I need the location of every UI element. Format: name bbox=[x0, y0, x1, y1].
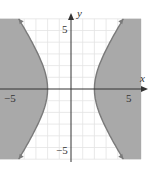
x-tick-pos5: 5 bbox=[126, 92, 132, 104]
x-axis-arrow-icon bbox=[141, 86, 148, 92]
x-tick-neg5: −5 bbox=[4, 92, 16, 104]
x-axis-label: x bbox=[139, 72, 145, 84]
y-axis-label: y bbox=[76, 7, 82, 19]
hyperbola-inequality-graph: x y −5 5 5 −5 bbox=[0, 0, 149, 170]
y-tick-pos5: 5 bbox=[62, 23, 68, 35]
y-axis bbox=[68, 13, 74, 162]
y-axis-arrow-icon bbox=[68, 13, 74, 20]
y-tick-neg5: −5 bbox=[56, 144, 68, 156]
